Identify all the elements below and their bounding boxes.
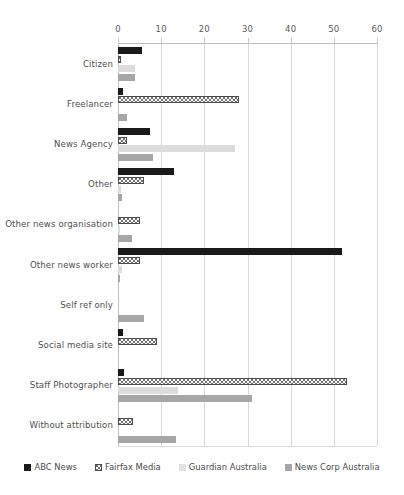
bar-news-agency-guardian-australia: [118, 145, 235, 152]
bar-staff-photographer-news-corp-australia: [118, 395, 252, 402]
x-tick-label-20: 20: [199, 24, 210, 34]
bar-citizen-guardian-australia: [118, 65, 135, 72]
chart-legend: ABC NewsFairfax MediaGuardian AustraliaN…: [0, 462, 404, 472]
bar-freelancer-abc-news: [118, 88, 123, 95]
bar-other-news-corp-australia: [118, 194, 122, 201]
bar-citizen-fairfax-media: [118, 56, 121, 63]
legend-label: News Corp Australia: [295, 462, 380, 472]
legend-item-guardian-australia[interactable]: Guardian Australia: [179, 462, 267, 472]
x-tick-label-30: 30: [242, 24, 253, 34]
bar-other-abc-news: [118, 168, 174, 175]
category-label-news-agency: News Agency: [0, 139, 113, 149]
bar-other-news-worker-guardian-australia: [118, 266, 122, 273]
x-tick-label-50: 50: [328, 24, 339, 34]
x-tick-label-10: 10: [156, 24, 167, 34]
gridline-50: [334, 44, 335, 446]
x-tick-mark-40: [291, 38, 292, 44]
category-label-social-media-site: Social media site: [0, 340, 113, 350]
legend-label: Fairfax Media: [105, 462, 161, 472]
x-tick-mark-30: [248, 38, 249, 44]
bar-other-news-worker-abc-news: [118, 248, 342, 255]
category-label-self-ref-only: Self ref only: [0, 300, 113, 310]
x-tick-label-0: 0: [115, 24, 121, 34]
legend-item-abc-news[interactable]: ABC News: [24, 462, 76, 472]
bar-staff-photographer-fairfax-media: [118, 378, 347, 385]
bar-freelancer-fairfax-media: [118, 96, 239, 103]
bar-news-agency-fairfax-media: [118, 137, 127, 144]
bar-other-news-organisation-fairfax-media: [118, 217, 140, 224]
bar-citizen-news-corp-australia: [118, 74, 135, 81]
gridline-40: [291, 44, 292, 446]
bar-news-agency-abc-news: [118, 128, 150, 135]
category-label-other-news-worker: Other news worker: [0, 260, 113, 270]
bar-other-news-worker-news-corp-australia: [118, 275, 120, 282]
gridline-60: [377, 44, 378, 446]
category-label-other-news-organisation: Other news organisation: [0, 219, 113, 229]
x-tick-mark-60: [377, 38, 378, 44]
x-tick-mark-10: [161, 38, 162, 44]
category-label-other: Other: [0, 179, 113, 189]
x-tick-mark-50: [334, 38, 335, 44]
bar-other-news-organisation-guardian-australia: [118, 226, 120, 233]
gridline-20: [204, 44, 205, 446]
x-tick-mark-0: [118, 38, 119, 44]
legend-label: Guardian Australia: [189, 462, 267, 472]
bar-staff-photographer-guardian-australia: [118, 387, 178, 394]
legend-item-news-corp-australia[interactable]: News Corp Australia: [285, 462, 380, 472]
x-tick-label-40: 40: [285, 24, 296, 34]
bar-chart: 0102030405060 CitizenFreelancerNews Agen…: [0, 0, 404, 495]
bar-without-attribution-fairfax-media: [118, 418, 133, 425]
bar-self-ref-only-news-corp-australia: [118, 315, 144, 322]
bar-news-agency-news-corp-australia: [118, 154, 153, 161]
category-label-freelancer: Freelancer: [0, 99, 113, 109]
category-label-without-attribution: Without attribution: [0, 420, 113, 430]
legend-swatch-icon: [179, 464, 186, 471]
legend-swatch-icon: [24, 464, 31, 471]
gridline-30: [248, 44, 249, 446]
legend-swatch-icon: [95, 464, 102, 471]
x-tick-mark-20: [204, 38, 205, 44]
bar-other-fairfax-media: [118, 177, 144, 184]
bar-staff-photographer-abc-news: [118, 369, 124, 376]
category-label-citizen: Citizen: [0, 59, 113, 69]
bar-freelancer-news-corp-australia: [118, 114, 127, 121]
bar-social-media-site-fairfax-media: [118, 338, 157, 345]
legend-item-fairfax-media[interactable]: Fairfax Media: [95, 462, 161, 472]
x-axis-line: [118, 446, 377, 447]
legend-label: ABC News: [34, 462, 76, 472]
category-label-staff-photographer: Staff Photographer: [0, 380, 113, 390]
legend-swatch-icon: [285, 464, 292, 471]
bar-without-attribution-news-corp-australia: [118, 436, 176, 443]
bar-other-news-organisation-news-corp-australia: [118, 235, 132, 242]
bar-citizen-abc-news: [118, 47, 142, 54]
x-tick-label-60: 60: [371, 24, 382, 34]
bar-social-media-site-abc-news: [118, 329, 123, 336]
bar-other-guardian-australia: [118, 186, 121, 193]
bar-other-news-worker-fairfax-media: [118, 257, 140, 264]
